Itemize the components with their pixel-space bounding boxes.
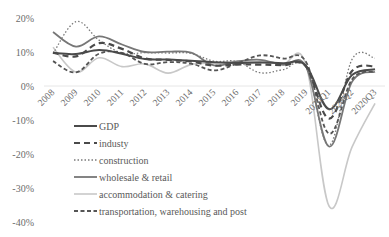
x-tick-label: 2019 [289,87,310,108]
legend-label-transportation: transportation, warehousing and post [99,206,247,217]
y-axis: 20%10%0%-10%-20%-30%-40% [12,13,34,228]
x-tick-label: 2017 [243,87,264,108]
legend-item-construction: construction [74,155,148,166]
legend-label-industry: industy [99,138,128,149]
x-tick-label: 2012 [128,87,149,108]
y-tick-label: 10% [16,47,34,58]
x-axis: 2008200920102011201220132014201520162017… [36,87,379,116]
legend-label-gdp: GDP [99,121,119,132]
y-tick-label: -40% [12,217,34,228]
y-tick-label: -20% [12,149,34,160]
x-tick-label: 2009 [59,87,80,108]
y-tick-label: 0% [21,81,34,92]
legend-item-transportation: transportation, warehousing and post [74,206,247,217]
y-tick-label: 20% [16,13,34,24]
legend-item-wholesale-retail: wholesale & retail [74,172,173,183]
x-tick-label: 2014 [174,87,195,108]
x-tick-label: 2016 [220,87,241,108]
legend-label-construction: construction [99,155,148,166]
line-chart: 20%10%0%-10%-20%-30%-40% 200820092010201… [0,0,389,237]
legend-label-accommodation-catering: accommodation & catering [99,189,208,200]
legend: GDP industy construction wholesale & ret… [74,121,247,217]
x-tick-label: 2011 [105,87,125,107]
x-tick-label: 2018 [266,87,287,108]
y-tick-label: -10% [12,115,34,126]
x-tick-label: 2008 [36,87,57,108]
legend-item-industry: industy [74,138,128,149]
x-tick-label: 2015 [197,87,218,108]
legend-item-gdp: GDP [74,121,119,132]
y-tick-label: -30% [12,183,34,194]
x-tick-label: 2013 [151,87,172,108]
x-tick-label: 2010 [82,87,103,108]
legend-item-accommodation-catering: accommodation & catering [74,189,208,200]
legend-label-wholesale-retail: wholesale & retail [99,172,173,183]
x-tick-label: 2020Q3 [350,87,379,116]
series-line-gdp [53,50,375,109]
